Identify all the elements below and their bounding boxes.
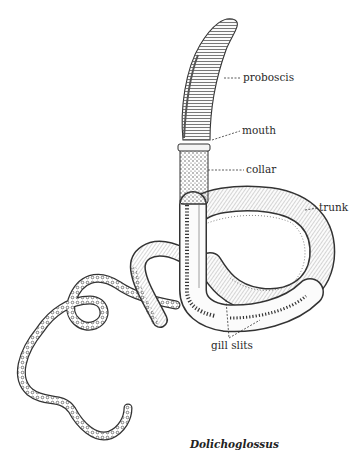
worm-illustration xyxy=(0,0,358,466)
figure-caption: Dolichoglossus xyxy=(190,439,279,450)
label-mouth: mouth xyxy=(242,125,276,136)
label-collar: collar xyxy=(246,164,276,175)
leader-mouth xyxy=(212,131,240,140)
label-gill-slits: gill slits xyxy=(211,340,253,351)
acorn-worm-diagram: proboscis mouth collar trunk gill slits … xyxy=(0,0,358,466)
label-trunk: trunk xyxy=(319,202,348,213)
label-proboscis: proboscis xyxy=(243,72,294,83)
worm-proboscis xyxy=(182,19,237,140)
worm-collar xyxy=(178,144,210,204)
worm-tail xyxy=(21,249,205,436)
